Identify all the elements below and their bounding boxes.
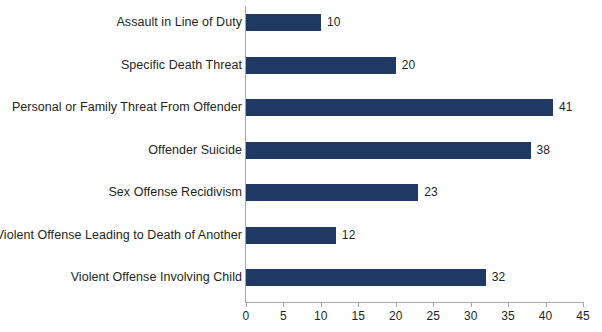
x-axis-tick-label: 45 — [576, 309, 590, 323]
category-label: Offender Suicide — [148, 142, 242, 159]
chart-row: Offender Suicide38 — [0, 142, 602, 159]
chart-row: Personal or Family Threat From Offender4… — [0, 99, 602, 116]
x-axis-tick-label: 30 — [464, 309, 478, 323]
x-axis-tick-mark — [321, 302, 322, 307]
bar-value-label: 32 — [492, 269, 506, 286]
x-axis-tick-mark — [583, 302, 584, 307]
category-label: Assault in Line of Duty — [116, 14, 242, 31]
bar — [246, 227, 336, 244]
bar-value-label: 41 — [559, 99, 573, 116]
bar — [246, 99, 553, 116]
x-axis-tick-label: 40 — [539, 309, 553, 323]
chart-row: Violent Offense Leading to Death of Anot… — [0, 227, 602, 244]
bar — [246, 184, 418, 201]
bar-value-label: 12 — [342, 227, 356, 244]
x-axis-tick-mark — [546, 302, 547, 307]
chart-row: Specific Death Threat20 — [0, 57, 602, 74]
category-label: Sex Offense Recidivism — [108, 184, 242, 201]
bar — [246, 142, 531, 159]
bar-value-label: 38 — [537, 142, 551, 159]
x-axis-tick-mark — [508, 302, 509, 307]
x-axis-tick-label: 10 — [314, 309, 328, 323]
x-axis-tick-label: 5 — [280, 309, 287, 323]
x-axis-tick-mark — [246, 302, 247, 307]
x-axis-tick-mark — [396, 302, 397, 307]
x-axis-tick-label: 15 — [352, 309, 366, 323]
bar-chart: 051015202530354045 Assault in Line of Du… — [0, 0, 602, 332]
bar-value-label: 20 — [402, 57, 416, 74]
chart-row: Assault in Line of Duty10 — [0, 14, 602, 31]
category-label: Personal or Family Threat From Offender — [12, 99, 242, 116]
bar — [246, 14, 321, 31]
x-axis-tick-label: 20 — [389, 309, 403, 323]
x-axis-tick-label: 35 — [501, 309, 515, 323]
chart-row: Sex Offense Recidivism23 — [0, 184, 602, 201]
category-label: Violent Offense Leading to Death of Anot… — [0, 227, 242, 244]
x-axis-tick-label: 25 — [426, 309, 440, 323]
x-axis-tick-mark — [433, 302, 434, 307]
bar-value-label: 23 — [424, 184, 438, 201]
x-axis-tick-label: 0 — [243, 309, 250, 323]
x-axis-tick-mark — [471, 302, 472, 307]
bar — [246, 57, 396, 74]
category-label: Specific Death Threat — [121, 57, 242, 74]
category-label: Violent Offense Involving Child — [71, 269, 242, 286]
x-axis-tick-mark — [358, 302, 359, 307]
x-axis-line — [245, 302, 584, 303]
bar-value-label: 10 — [327, 14, 341, 31]
chart-row: Violent Offense Involving Child32 — [0, 269, 602, 286]
x-axis-tick-mark — [283, 302, 284, 307]
bar — [246, 269, 486, 286]
